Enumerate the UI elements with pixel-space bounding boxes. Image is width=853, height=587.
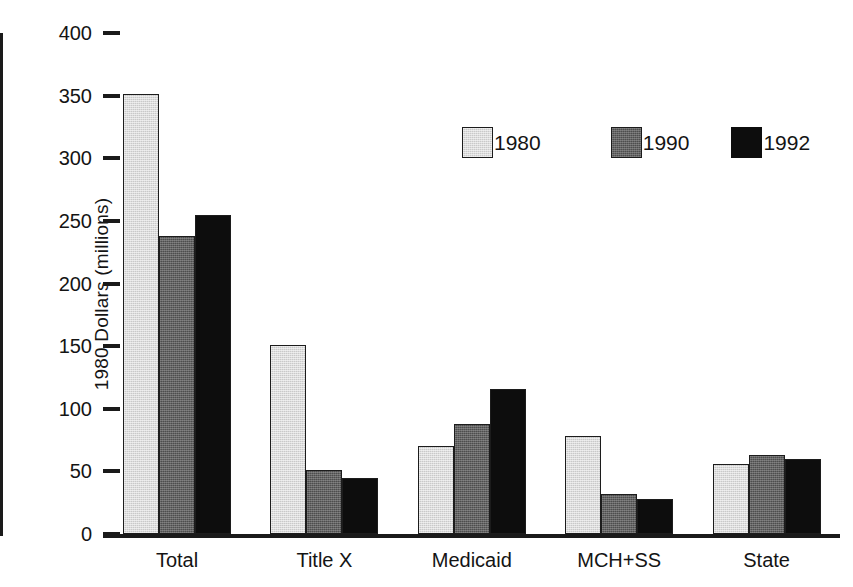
bar-total-1980[interactable] <box>123 94 159 534</box>
bar-medicaid-1990[interactable] <box>454 424 490 534</box>
y-tick-label-50: 50 <box>18 460 92 483</box>
legend-entry-1990[interactable]: 1990 <box>611 127 690 158</box>
bar-medicaid-1992[interactable] <box>490 389 526 534</box>
y-tick-label-200: 200 <box>18 272 92 295</box>
legend-label-1992: 1992 <box>763 131 810 155</box>
bar-chart-figure: 1980 Dollars (millions) 0501001502002503… <box>0 0 853 587</box>
x-axis-line <box>103 534 840 538</box>
y-tick-label-0: 0 <box>18 523 92 546</box>
bar-state-1980[interactable] <box>713 464 749 534</box>
legend: 1980 1990 1992 <box>462 127 810 158</box>
x-axis-label-medicaid: Medicaid <box>432 549 512 572</box>
bar-title-x-1990[interactable] <box>306 470 342 534</box>
legend-label-1980: 1980 <box>494 131 541 155</box>
x-axis-label-title-x: Title X <box>296 549 352 572</box>
y-tick-label-400: 400 <box>18 22 92 45</box>
legend-swatch-1980-icon <box>462 127 493 158</box>
bar-state-1992[interactable] <box>785 459 821 534</box>
bar-total-1990[interactable] <box>159 236 195 534</box>
bar-mch-ss-1992[interactable] <box>637 499 673 534</box>
legend-swatch-1990-icon <box>611 127 642 158</box>
legend-entry-1980[interactable]: 1980 <box>462 127 541 158</box>
bar-state-1990[interactable] <box>749 455 785 534</box>
y-axis-line <box>0 33 3 536</box>
bar-mch-ss-1980[interactable] <box>565 436 601 534</box>
y-tick-label-150: 150 <box>18 335 92 358</box>
legend-label-1990: 1990 <box>643 131 690 155</box>
bars-layer <box>103 33 840 534</box>
y-tick-label-300: 300 <box>18 147 92 170</box>
bar-title-x-1992[interactable] <box>342 478 378 534</box>
y-tick-label-350: 350 <box>18 84 92 107</box>
y-tick-label-100: 100 <box>18 397 92 420</box>
legend-swatch-1992-icon <box>731 127 762 158</box>
x-axis-label-state: State <box>743 549 790 572</box>
x-axis-label-total: Total <box>156 549 198 572</box>
x-axis-label-mch-ss: MCH+SS <box>577 549 661 572</box>
y-tick-label-250: 250 <box>18 209 92 232</box>
legend-entry-1992[interactable]: 1992 <box>731 127 810 158</box>
bar-mch-ss-1990[interactable] <box>601 494 637 534</box>
bar-total-1992[interactable] <box>195 215 231 534</box>
bar-title-x-1980[interactable] <box>270 345 306 534</box>
bar-medicaid-1980[interactable] <box>418 446 454 534</box>
